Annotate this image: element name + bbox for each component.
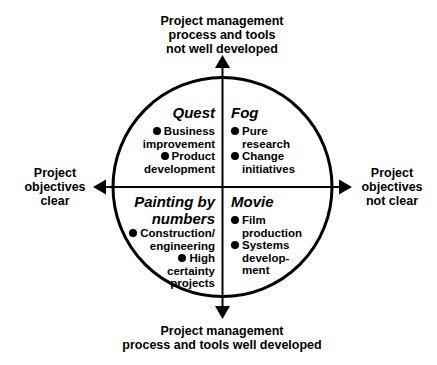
axis-label-bottom: Project management process and tools wel… xyxy=(92,324,352,352)
axis-label-right-line: not clear xyxy=(356,194,428,208)
item-text: Product xyxy=(172,150,215,162)
bullet-icon xyxy=(231,241,239,249)
bullet-icon xyxy=(178,254,186,262)
list-item-cont: certainty xyxy=(129,265,215,278)
list-item: Business xyxy=(143,125,215,138)
list-item: Systems xyxy=(231,239,302,252)
list-item-cont: ment xyxy=(231,264,302,277)
list-item: Construction/ xyxy=(129,227,215,240)
axis-label-left-line: objectives xyxy=(20,180,90,194)
list-item-cont: engineering xyxy=(129,240,215,253)
arrow-right-icon xyxy=(339,180,352,195)
quadrant-title: Movie xyxy=(231,193,302,210)
list-item: Change xyxy=(231,150,295,163)
quadrant-title: Quest xyxy=(143,104,215,121)
arrow-up-icon xyxy=(215,55,230,68)
axis-label-left-line: Project xyxy=(20,166,90,180)
item-text: Film xyxy=(242,214,266,226)
list-item: Product xyxy=(143,150,215,163)
bullet-icon xyxy=(129,229,137,237)
axis-label-top: Project management process and tools not… xyxy=(122,14,322,56)
quadrant-painting-by-numbers: Painting by numbers Construction/ engine… xyxy=(129,193,215,290)
axis-label-top-line: not well developed xyxy=(122,42,322,56)
list-item: Film xyxy=(231,214,302,227)
quadrant-quest: Quest Business improvement Product devel… xyxy=(143,104,215,175)
list-item-cont: development xyxy=(143,163,215,176)
axis-label-right: Project objectives not clear xyxy=(356,166,428,208)
item-text: Systems xyxy=(242,239,289,251)
axis-label-left-line: clear xyxy=(20,194,90,208)
list-item-cont: production xyxy=(231,227,302,240)
quadrant-title-line: numbers xyxy=(129,210,215,227)
axis-label-bottom-line: process and tools well developed xyxy=(92,338,352,352)
item-text: Change xyxy=(242,150,284,162)
axis-label-right-line: Project xyxy=(356,166,428,180)
list-item-cont: develop- xyxy=(231,252,302,265)
axis-label-top-line: process and tools xyxy=(122,28,322,42)
axis-label-top-line: Project management xyxy=(122,14,322,28)
axis-label-left: Project objectives clear xyxy=(20,166,90,208)
item-text: Construction/ xyxy=(140,227,215,239)
bullet-icon xyxy=(231,152,239,160)
axis-label-right-line: objectives xyxy=(356,180,428,194)
item-text: Business xyxy=(164,125,215,137)
quadrant-title: Fog xyxy=(231,104,295,121)
item-text: Pure xyxy=(242,125,268,137)
list-item: Pure xyxy=(231,125,295,138)
arrow-down-icon xyxy=(215,306,230,319)
bullet-icon xyxy=(161,152,169,160)
axis-label-bottom-line: Project management xyxy=(92,324,352,338)
list-item-cont: research xyxy=(231,138,295,151)
bullet-icon xyxy=(231,216,239,224)
quadrant-title-line: Painting by xyxy=(129,193,215,210)
list-item-cont: projects xyxy=(129,277,215,290)
bullet-icon xyxy=(231,127,239,135)
item-text: High xyxy=(189,252,215,264)
list-item: High xyxy=(129,252,215,265)
list-item-cont: initiatives xyxy=(231,163,295,176)
list-item-cont: improvement xyxy=(143,138,215,151)
bullet-icon xyxy=(153,127,161,135)
arrow-left-icon xyxy=(93,180,106,195)
quadrant-movie: Movie Film production Systems develop- m… xyxy=(231,193,302,277)
quadrant-fog: Fog Pure research Change initiatives xyxy=(231,104,295,175)
